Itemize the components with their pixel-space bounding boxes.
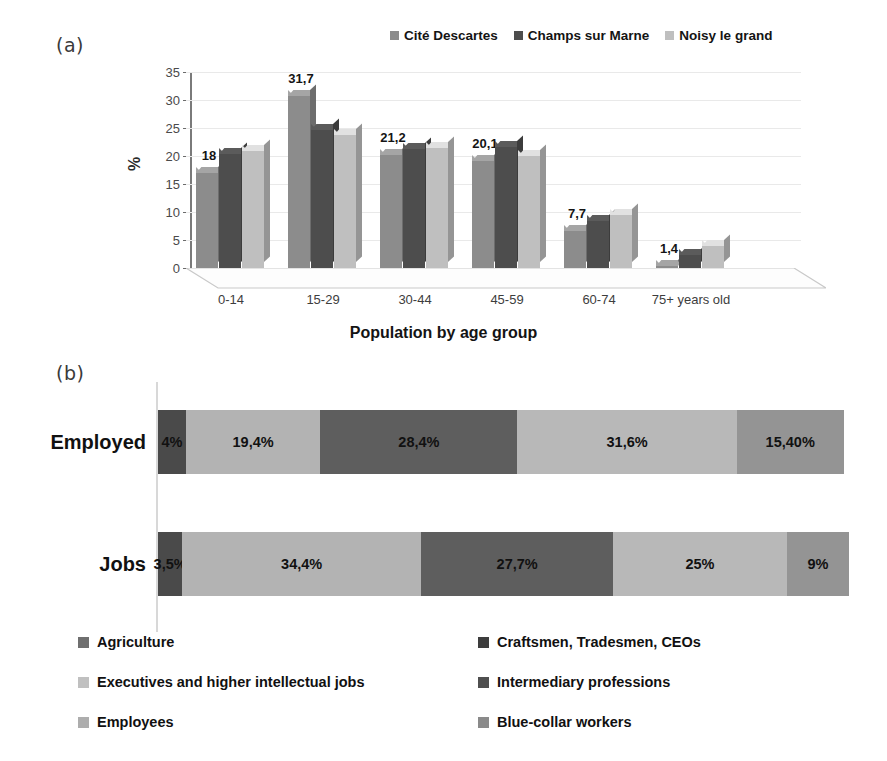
y-tick-label: 25 [166,121,180,136]
bar-side-face [356,123,362,262]
legend-swatch-champs-sur-marne [514,31,523,40]
x-axis-title: Population by age group [0,324,887,342]
bar-1 [403,143,425,268]
bar-face [380,155,402,268]
panel-b-stacked-bar-chart: (b) Employed Jobs 4%19,4%28,4%31,6%15,40… [0,352,887,761]
bar-face [679,255,701,268]
bar-face [702,246,724,268]
stack-segment: 27,7% [421,532,613,596]
legend-label-cite-descartes: Cité Descartes [404,28,498,43]
legend-item-employees: Employees [78,714,478,730]
bar-value-label: 18 [202,148,216,163]
bar-face [334,135,356,268]
legend-swatch [78,717,89,728]
bar-2 [610,209,632,268]
stack-segment: 25% [613,532,787,596]
panel-a-grouped-bar-chart: (a) Cité Descartes Champs sur Marne Nois… [0,0,887,350]
bar-2 [426,142,448,268]
bar-face [495,147,517,268]
legend-label: Intermediary professions [497,674,670,690]
bar-face [219,154,241,268]
legend-swatch [78,637,89,648]
bar-face [472,161,494,268]
x-category-label: 0-14 [189,292,273,308]
gridline [186,100,801,101]
legend-swatch [478,677,489,688]
legend-label: Blue-collar workers [497,714,632,730]
bar-0 [196,167,218,268]
x-category-label: 60-74 [557,292,641,308]
bar-1 [311,124,333,268]
y-tick-label: 30 [166,93,180,108]
bar-value-label: 31,7 [288,71,313,86]
bar-face [242,151,264,268]
bar-0 [380,149,402,268]
bar-side-face [632,203,638,262]
legend-item-agriculture: Agriculture [78,634,478,650]
bar-0 [472,155,494,268]
y-tick-label: 10 [166,205,180,220]
bar-value-label: 7,7 [568,206,586,221]
y-tick-label: 15 [166,177,180,192]
bar-face [196,173,218,268]
bar-1 [495,141,517,268]
bar-2 [518,150,540,268]
x-category-label: 15-29 [281,292,365,308]
gridline [186,128,801,129]
bar-1 [219,148,241,268]
bar-side-face [264,140,270,262]
row-label-jobs: Jobs [20,553,146,576]
panel-a-label: (a) [56,34,84,56]
y-tick-label: 5 [173,233,180,248]
legend-item-executives-and-higher-intellectual-jobs: Executives and higher intellectual jobs [78,674,478,690]
bar-2 [242,145,264,268]
gridline [186,72,801,73]
legend-swatch [478,717,489,728]
legend-label-noisy-le-grand: Noisy le grand [679,28,772,43]
stack-segment: 28,4% [320,410,517,474]
x-category-label: 30-44 [373,292,457,308]
bar-face [311,130,333,268]
legend-panel-a: Cité Descartes Champs sur Marne Noisy le… [390,28,772,43]
legend-item-intermediary-professions: Intermediary professions [478,674,858,690]
legend-panel-b: AgricultureCraftsmen, Tradesmen, CEOsExe… [78,634,858,730]
x-category-label: 75+ years old [649,292,733,308]
bar-value-label: 1,4 [660,241,678,256]
bar-0 [564,225,586,268]
chart-floor-3d [186,268,826,290]
bar-face [587,221,609,268]
row-label-employed: Employed [20,431,146,454]
bar-1 [679,249,701,268]
bar-face [610,215,632,268]
bar-face [656,266,678,268]
legend-label: Employees [97,714,174,730]
legend-swatch [478,637,489,648]
bar-side-face [540,144,546,262]
stack-segment: 3,5% [158,532,182,596]
legend-item-noisy-le-grand: Noisy le grand [665,28,772,43]
bar-face [518,156,540,268]
bar-face [403,149,425,268]
legend-label: Agriculture [97,634,174,650]
legend-swatch-noisy-le-grand [665,31,674,40]
legend-label: Craftsmen, Tradesmen, CEOs [497,634,701,650]
panel-b-label: (b) [56,362,84,384]
bar-face [288,96,310,268]
bar-value-label: 20,1 [472,136,497,151]
legend-label: Executives and higher intellectual jobs [97,674,365,690]
legend-swatch-cite-descartes [390,31,399,40]
x-category-label: 45-59 [465,292,549,308]
stack-segment: 9% [787,532,849,596]
bar-0 [288,90,310,268]
stack-segment: 19,4% [186,410,321,474]
stack-segment: 15,40% [737,410,844,474]
y-axis-tick-labels: 05101520253035 [146,72,180,268]
bar-side-face [448,137,454,262]
legend-item-craftsmen-tradesmen-ceos: Craftsmen, Tradesmen, CEOs [478,634,858,650]
y-axis-title: % [126,157,144,171]
bar-2 [334,129,356,268]
stacked-bar-jobs: 3,5%34,4%27,7%25%9% [158,532,852,596]
stack-segment: 4% [158,410,186,474]
y-tick-label: 0 [173,261,180,276]
legend-label-champs-sur-marne: Champs sur Marne [528,28,650,43]
